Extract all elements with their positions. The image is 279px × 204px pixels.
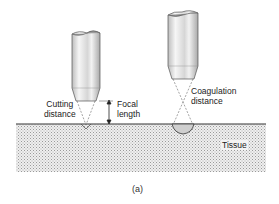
cutting-probe [72,31,100,101]
coagulation-label-line1: Coagulation [191,86,236,96]
cutting-label-line2: distance [44,109,76,119]
focal-length-label: Focal length [117,99,140,119]
cutting-beam [77,101,95,125]
figure-caption: (a) [132,184,143,194]
coagulation-label-line2: distance [191,96,236,106]
cutting-distance-label: Cutting distance [44,99,76,119]
coagulation-probe [168,11,198,79]
focal-length-arrow [99,100,113,124]
tissue-label: Tissue [221,140,248,150]
coagulation-distance-label: Coagulation distance [191,86,236,106]
cutting-label-line1: Cutting [44,99,76,109]
focal-label-line2: length [117,109,140,119]
coagulation-beam [173,79,193,125]
focal-label-line1: Focal [117,99,140,109]
